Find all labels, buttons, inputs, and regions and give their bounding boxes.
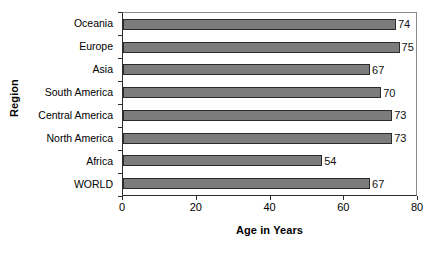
y-tick-label: Africa	[22, 150, 118, 173]
y-axis-tick-labels: Oceania Europe Asia South America Centra…	[22, 12, 118, 196]
x-axis-tick-label: 40	[263, 201, 275, 214]
y-axis-tick	[118, 173, 122, 174]
bar-row: 74	[123, 13, 416, 36]
bar-value-label: 74	[398, 19, 410, 30]
bar-asia: 67	[123, 64, 370, 75]
y-axis-tick	[118, 104, 122, 105]
y-axis-tick	[118, 150, 122, 151]
y-tick-label: North America	[22, 127, 118, 150]
y-axis-tick	[118, 58, 122, 59]
y-axis-tick	[118, 35, 122, 36]
bar-central-america: 73	[123, 110, 392, 121]
x-axis-tick	[196, 196, 197, 200]
bar-europe: 75	[123, 42, 400, 53]
x-axis-tick	[343, 196, 344, 200]
y-axis-tick	[118, 127, 122, 128]
bar-value-label: 67	[372, 178, 384, 189]
y-axis-title: Region	[6, 0, 22, 196]
y-tick-label: WORLD	[22, 173, 118, 196]
y-axis-ticks	[122, 12, 127, 196]
plot-area: 74 75 67 70 73	[122, 12, 417, 196]
x-axis-tick-labels: 020406080	[122, 201, 417, 217]
y-tick-label: Central America	[22, 104, 118, 127]
bar-north-america: 73	[123, 133, 392, 144]
bar-row: 67	[123, 172, 416, 195]
bar-value-label: 75	[402, 42, 414, 53]
bar-value-label: 70	[383, 87, 395, 98]
x-axis-tick-label: 0	[119, 201, 125, 214]
x-axis-tick-label: 60	[337, 201, 349, 214]
y-axis-tick	[118, 81, 122, 82]
bar-africa: 54	[123, 155, 322, 166]
x-axis-title: Age in Years	[122, 224, 417, 236]
bar-row: 54	[123, 150, 416, 173]
bar-value-label: 54	[324, 155, 336, 166]
bar-value-label: 73	[394, 110, 406, 121]
x-axis-tick-label: 80	[411, 201, 423, 214]
x-axis-tick-label: 20	[190, 201, 202, 214]
y-axis-title-text: Region	[8, 79, 20, 117]
y-tick-label: Europe	[22, 35, 118, 58]
bar-row: 75	[123, 36, 416, 59]
y-tick-label: Oceania	[22, 12, 118, 35]
bar-row: 73	[123, 127, 416, 150]
bar-world: 67	[123, 178, 370, 189]
bar-oceania: 74	[123, 19, 396, 30]
bar-row: 73	[123, 104, 416, 127]
bar-row: 70	[123, 81, 416, 104]
bar-south-america: 70	[123, 87, 381, 98]
x-axis-tick	[122, 196, 123, 200]
y-tick-label: Asia	[22, 58, 118, 81]
bar-value-label: 67	[372, 64, 384, 75]
bar-value-label: 73	[394, 133, 406, 144]
y-tick-label: South America	[22, 81, 118, 104]
x-axis-tick	[270, 196, 271, 200]
bar-row: 67	[123, 59, 416, 82]
y-axis-tick	[118, 12, 122, 13]
bars-layer: 74 75 67 70 73	[123, 13, 416, 195]
x-axis-tick	[417, 196, 418, 200]
bar-chart-figure: Region Oceania Europe Asia South America…	[0, 0, 437, 259]
